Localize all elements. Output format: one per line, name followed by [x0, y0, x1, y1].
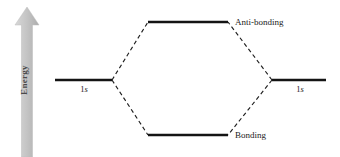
antibonding-label: Anti-bonding	[235, 17, 284, 27]
atomic-orbital-left-label: 1s	[80, 84, 88, 94]
energy-axis-arrow: Energy	[15, 7, 39, 157]
energy-level-lines-group	[55, 22, 326, 135]
mo-diagram-figure: Energy Anti-bonding Bonding 1s 1s	[0, 0, 340, 157]
atomic-orbital-right-label: 1s	[296, 84, 304, 94]
correlation-line-right-antibonding	[228, 22, 272, 80]
bonding-label: Bonding	[235, 130, 267, 140]
correlation-line-right-bonding	[228, 80, 272, 135]
correlation-lines-group	[112, 22, 272, 135]
mo-diagram-canvas: Energy Anti-bonding Bonding 1s 1s	[0, 0, 340, 157]
atomic-orbital-left-label-orbital: s	[84, 84, 88, 94]
correlation-line-left-antibonding	[112, 22, 148, 80]
correlation-line-left-bonding	[112, 80, 148, 135]
energy-axis-label: Energy	[19, 65, 29, 95]
atomic-orbital-right-label-orbital: s	[300, 84, 304, 94]
